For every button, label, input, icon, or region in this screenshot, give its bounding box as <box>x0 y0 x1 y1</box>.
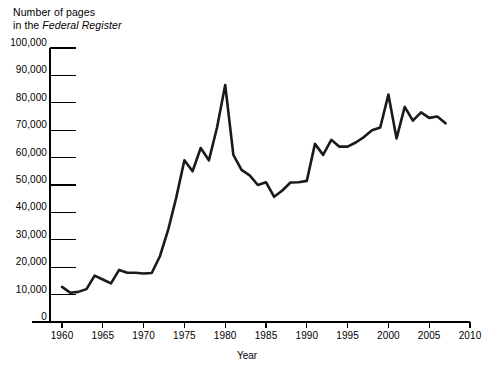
y-tick-label: 40,000 <box>0 201 47 212</box>
y-axis <box>50 48 76 322</box>
x-tick-label: 2010 <box>445 330 494 341</box>
chart-figure: Number of pages in the Federal Register … <box>0 0 494 372</box>
y-tick-label: 20,000 <box>0 256 47 267</box>
data-line-federal-register <box>62 85 446 293</box>
y-tick-label: 10,000 <box>0 284 47 295</box>
y-tick-label: 30,000 <box>0 229 47 240</box>
y-tick-label: 80,000 <box>0 92 47 103</box>
y-tick-label: 50,000 <box>0 174 47 185</box>
x-axis-title: Year <box>0 350 494 361</box>
y-tick-label: 100,000 <box>0 37 47 48</box>
y-tick-label: 0 <box>0 311 47 322</box>
y-tick-label: 70,000 <box>0 119 47 130</box>
y-tick-label: 90,000 <box>0 64 47 75</box>
y-tick-label: 60,000 <box>0 147 47 158</box>
x-axis <box>32 322 470 328</box>
plot-area <box>0 0 494 372</box>
